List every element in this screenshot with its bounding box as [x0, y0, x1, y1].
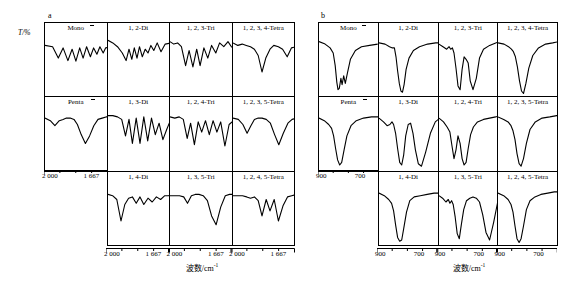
panel-b-x-axis-label: 波数/cm-1 — [377, 262, 561, 273]
spectrum-cell-1-2-4-tri: 1, 2, 4-Tri — [438, 96, 499, 171]
axis-tick-label-left: 2 000 — [104, 250, 120, 258]
axis-tick-label-left: 900 — [435, 250, 446, 258]
spectrum-trace — [498, 172, 558, 246]
y-axis-label: T/% — [18, 28, 31, 37]
spectrum-trace — [439, 97, 499, 171]
spectrum-cell-mono: Mono — [318, 22, 379, 97]
spectrum-trace — [319, 23, 379, 97]
panel-b: b Mono1, 2-Di1, 2, 3-Tri1, 2, 3, 4-Tetra… — [290, 0, 577, 290]
spectrum-cell-1-2-3-5-tetra: 1, 2, 3, 5-Tetra — [232, 96, 296, 171]
spectrum-trace — [170, 23, 233, 97]
axis-tick-label-left: 2 000 — [42, 172, 58, 180]
axis-ticks — [318, 170, 379, 175]
panel-a-x-axis-label-exponent: -1 — [214, 262, 219, 268]
spectrum-trace — [439, 172, 499, 246]
axis-tick-label-left: 900 — [375, 250, 386, 258]
panel-a-x-axis-label-text: 波数/cm — [186, 264, 214, 273]
spectrum-cell-penta: Penta — [44, 96, 108, 171]
spectrum-cell-mono: Mono — [44, 22, 108, 97]
spectrum-cell-1-4-di: 1, 4-Di — [378, 171, 439, 246]
axis-tick-label-right: 1 667 — [208, 250, 224, 258]
panel-b-grid: Mono1, 2-Di1, 2, 3-Tri1, 2, 3, 4-TetraPe… — [318, 22, 561, 248]
spectrum-trace — [108, 97, 171, 171]
spectrum-cell-1-3-di: 1, 3-Di — [378, 96, 439, 171]
panel-a: a T/% Mono1, 2-Di1, 2, 3-Tri1, 2, 3, 4-T… — [0, 0, 290, 290]
axis-tick-label-right: 700 — [474, 250, 485, 258]
axis-tick-label-right: 700 — [355, 172, 366, 180]
axis-tick-label-right: 1 667 — [271, 250, 287, 258]
axis-tick-label-right: 1 667 — [84, 172, 100, 180]
panel-a-grid: Mono1, 2-Di1, 2, 3-Tri1, 2, 3, 4-TetraPe… — [44, 22, 298, 248]
panel-b-x-axis-label-text: 波数/cm — [453, 264, 481, 273]
spectrum-cell-1-2-3-tri: 1, 2, 3-Tri — [169, 22, 233, 97]
spectrum-cell-1-2-4-5-tetra: 1, 2, 4, 5-Tetra — [232, 171, 296, 246]
axis-ticks — [377, 248, 557, 253]
axis-tick-label-left: 2 000 — [229, 250, 245, 258]
spectrum-cell-1-2-4-tri: 1, 2, 4-Tri — [169, 96, 233, 171]
panel-b-bottom-axis — [377, 248, 557, 253]
spectrum-trace — [108, 23, 171, 97]
spectrum-trace — [498, 23, 558, 97]
spectrum-cell-1-2-3-4-tetra: 1, 2, 3, 4-Tetra — [232, 22, 296, 97]
spectrum-trace — [233, 172, 296, 246]
spectrum-cell-1-3-5-tri: 1, 3, 5-Tri — [438, 171, 499, 246]
axis-tick-label-right: 700 — [533, 250, 544, 258]
spectrum-trace — [170, 172, 233, 246]
panel-a-letter: a — [48, 11, 52, 20]
spectrum-cell-1-2-3-5-tetra: 1, 2, 3, 5-Tetra — [497, 96, 558, 171]
spectrum-trace — [379, 97, 439, 171]
panel-b-left-axis — [318, 170, 379, 175]
spectrum-cell-1-3-5-tri: 1, 3, 5-Tri — [169, 171, 233, 246]
panel-b-x-axis-label-exponent: -1 — [481, 262, 486, 268]
axis-tick-label-left: 900 — [316, 172, 327, 180]
axis-ticks — [106, 248, 295, 253]
ir-spectra-figure: a T/% Mono1, 2-Di1, 2, 3-Tri1, 2, 3, 4-T… — [0, 0, 577, 290]
spectrum-trace — [45, 97, 108, 171]
spectrum-trace — [233, 23, 296, 97]
axis-tick-label-right: 1 667 — [146, 250, 162, 258]
spectrum-trace — [379, 172, 439, 246]
spectrum-trace — [439, 23, 499, 97]
spectrum-cell-1-3-di: 1, 3-Di — [107, 96, 171, 171]
spectrum-cell-penta: Penta — [318, 96, 379, 171]
spectrum-trace — [233, 97, 296, 171]
spectrum-cell-1-2-di: 1, 2-Di — [378, 22, 439, 97]
axis-tick-label-right: 700 — [414, 250, 425, 258]
spectrum-cell-1-2-3-4-tetra: 1, 2, 3, 4-Tetra — [497, 22, 558, 97]
spectrum-trace — [379, 23, 439, 97]
spectrum-cell-1-2-di: 1, 2-Di — [107, 22, 171, 97]
panel-a-bottom-axis — [106, 248, 295, 253]
axis-tick-label-left: 900 — [495, 250, 506, 258]
spectrum-trace — [319, 97, 379, 171]
spectrum-cell-1-4-di: 1, 4-Di — [107, 171, 171, 246]
panel-a-x-axis-label: 波数/cm-1 — [106, 262, 298, 273]
spectrum-trace — [45, 23, 108, 97]
spectrum-cell-1-2-4-5-tetra: 1, 2, 4, 5-Tetra — [497, 171, 558, 246]
spectrum-trace — [170, 97, 233, 171]
axis-tick-label-left: 2 000 — [167, 250, 183, 258]
spectrum-cell-1-2-3-tri: 1, 2, 3-Tri — [438, 22, 499, 97]
panel-b-letter: b — [321, 11, 325, 20]
spectrum-trace — [498, 97, 558, 171]
spectrum-trace — [108, 172, 171, 246]
